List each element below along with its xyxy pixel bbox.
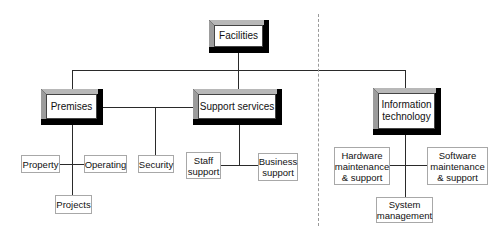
node-property: Property [21, 155, 60, 173]
node-support-services: Support services [193, 89, 282, 125]
node-premises-label: Premises [46, 94, 97, 119]
connector-to-support-services [238, 70, 239, 90]
node-operating: Operating [84, 155, 127, 173]
connector-property-operating [59, 164, 85, 165]
node-security: Security [138, 155, 174, 173]
connector-to-it [405, 70, 406, 89]
node-business-support: Business support [258, 153, 298, 181]
connector-top-bus [72, 70, 406, 71]
node-hardware-maintenance: Hardware maintenance & support [334, 147, 390, 185]
node-facilities: Facilities [209, 20, 269, 53]
node-information-technology: Information technology [373, 88, 441, 135]
node-staff-support: Staff support [186, 152, 221, 179]
connector-to-premises [72, 70, 73, 90]
node-facilities-label: Facilities [214, 25, 263, 47]
connector-facilities-down [238, 52, 239, 71]
node-premises: Premises [41, 89, 103, 125]
node-information-technology-label: Information technology [378, 93, 435, 129]
connector-staff-business [220, 165, 259, 166]
connector-it-down [405, 134, 406, 198]
separator-dashed-line [318, 14, 319, 226]
connector-to-security [155, 107, 156, 155]
connector-support-down [239, 124, 240, 166]
node-software-maintenance: Software maintenance & support [427, 147, 488, 185]
node-support-services-label: Support services [198, 94, 276, 119]
node-projects: Projects [55, 195, 92, 214]
node-system-management: System management [376, 197, 433, 223]
connector-premises-down [72, 124, 73, 196]
connector-hardware-software [389, 165, 428, 166]
connector-premises-to-support [102, 107, 194, 108]
